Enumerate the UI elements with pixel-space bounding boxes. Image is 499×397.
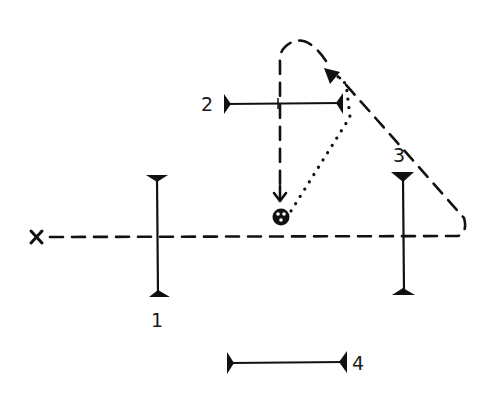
arrow-down-icon [274, 186, 286, 201]
element-3 [391, 172, 415, 295]
element-1-label: 1 [151, 309, 163, 331]
dotted-beam-path [291, 74, 350, 211]
diagram-canvas: 1 2 3 4 [0, 0, 499, 397]
element-4-label: 4 [352, 352, 364, 374]
sample-target-icon [273, 209, 290, 226]
element-2-label: 2 [201, 93, 213, 115]
element-2 [224, 93, 343, 114]
origin-x-icon [31, 231, 42, 243]
element-3-label: 3 [393, 144, 405, 166]
element-4 [227, 351, 347, 374]
